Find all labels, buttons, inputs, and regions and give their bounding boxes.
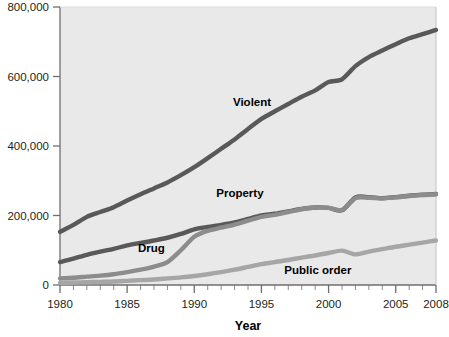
- x-axis-title: Year: [235, 319, 262, 333]
- series-label-public-order: Public order: [284, 264, 352, 276]
- plot-background: [60, 7, 436, 285]
- x-tick-label: 1980: [47, 298, 73, 310]
- line-chart: 0200,000400,000600,000800,000 1980198519…: [0, 0, 449, 337]
- series-label-property: Property: [216, 187, 264, 199]
- x-tick-label: 1990: [181, 298, 207, 310]
- x-tick-label: 2005: [383, 298, 409, 310]
- y-tick-label: 400,000: [7, 140, 49, 152]
- x-tick-label: 1995: [249, 298, 275, 310]
- chart-container: 0200,000400,000600,000800,000 1980198519…: [0, 0, 449, 337]
- y-tick-label: 800,000: [7, 1, 49, 13]
- x-tick-label: 2000: [316, 298, 342, 310]
- y-tick-label: 200,000: [7, 210, 49, 222]
- y-tick-label: 600,000: [7, 71, 49, 83]
- series-label-violent: Violent: [233, 96, 271, 108]
- series-label-drug: Drug: [138, 242, 165, 254]
- y-tick-label: 0: [43, 279, 49, 291]
- x-tick-label: 2008: [423, 298, 449, 310]
- x-tick-label: 1985: [114, 298, 140, 310]
